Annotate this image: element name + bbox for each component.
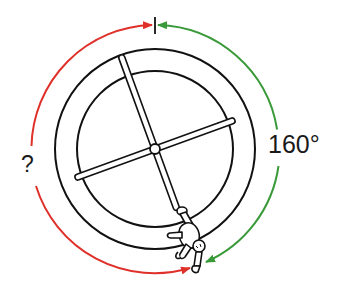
known-angle-arc-lower <box>206 166 279 262</box>
hub <box>150 144 160 154</box>
unknown-angle-arc-lower <box>36 186 190 273</box>
known-angle-arc-upper <box>158 25 277 130</box>
unknown-angle-label: ? <box>21 151 34 178</box>
person-figure <box>167 207 205 273</box>
known-angle-label: 160° <box>268 130 320 159</box>
